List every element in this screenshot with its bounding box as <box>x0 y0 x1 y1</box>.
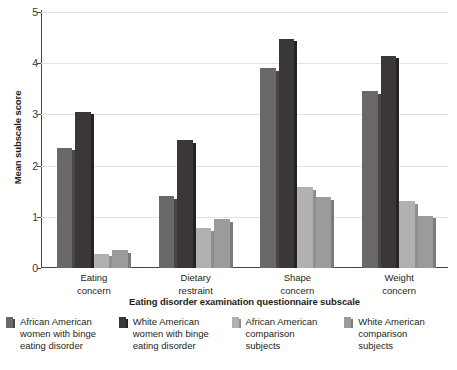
legend-label: African Americancomparisonsubjects <box>246 316 318 353</box>
bar-chart-figure: Mean subscale score 012345 Eatingconcern… <box>0 0 457 370</box>
x-axis-category-label: Dietaryrestraint <box>148 272 244 297</box>
bar-shadow-edge <box>128 253 131 268</box>
legend-swatch-shadow-edge <box>239 319 241 329</box>
x-axis-category-label-line: Shape <box>249 272 345 285</box>
legend-label-line: White American <box>133 316 209 328</box>
bar <box>381 56 400 268</box>
bar-face <box>214 219 230 268</box>
bar <box>159 196 178 268</box>
bar-shadow-edge <box>433 218 436 268</box>
legend-label: African Americanwomen with bingeeating d… <box>20 316 96 353</box>
x-axis-category-label: Weightconcern <box>351 272 447 297</box>
legend-label-line: subjects <box>246 340 318 352</box>
legend-label-line: African American <box>20 316 96 328</box>
bar-face <box>418 216 434 268</box>
bar-face <box>381 56 397 268</box>
legend-item: White Americancomparisonsubjects <box>344 316 457 353</box>
bar-face <box>399 201 415 268</box>
plot-region: Mean subscale score 012345 Eatingconcern… <box>0 4 457 286</box>
legend-swatch-shadow-edge <box>13 319 15 329</box>
legend-label: White Americancomparisonsubjects <box>358 316 425 353</box>
legend-label-line: women with binge <box>133 328 209 340</box>
bar <box>399 201 418 268</box>
legend-swatch-face <box>344 317 351 328</box>
bar-face <box>260 68 276 268</box>
bar-face <box>196 228 212 268</box>
y-axis-tick-mark <box>37 268 41 269</box>
legend-item: White Americanwomen with bingeeating dis… <box>119 316 232 353</box>
bar <box>57 148 76 268</box>
legend-label-line: comparison <box>246 328 318 340</box>
bar-face <box>112 250 128 268</box>
bar <box>297 187 316 268</box>
x-axis-category-label: Shapeconcern <box>249 272 345 297</box>
bar <box>94 254 113 268</box>
bar-shadow-edge <box>91 114 94 268</box>
y-axis-title: Mean subscale score <box>12 58 23 218</box>
bar-face <box>57 148 73 268</box>
x-axis-category-label-line: Eating <box>46 272 142 285</box>
bar-face <box>362 91 378 268</box>
x-axis-title: Eating disorder examination questionnair… <box>41 296 448 307</box>
legend-swatch-icon <box>6 317 15 328</box>
legend-swatch-shadow-edge <box>351 319 353 329</box>
legend-label-line: comparison <box>358 328 425 340</box>
bar-face <box>75 112 91 268</box>
bar-shadow-edge <box>230 222 233 268</box>
bar <box>362 91 381 268</box>
bar <box>177 140 196 268</box>
legend-swatch-icon <box>344 317 353 328</box>
bar <box>196 228 215 268</box>
bar-face <box>297 187 313 268</box>
legend-item: African Americancomparisonsubjects <box>232 316 345 353</box>
x-axis-category-label-line: Dietary <box>148 272 244 285</box>
x-axis-category-label-line: Weight <box>351 272 447 285</box>
legend-label-line: women with binge <box>20 328 96 340</box>
bar <box>279 39 298 268</box>
bar-face <box>316 197 332 268</box>
legend-swatch-face <box>232 317 239 328</box>
legend-swatch-icon <box>232 317 241 328</box>
y-axis-tick-labels: 012345 <box>22 4 38 274</box>
legend-label-line: subjects <box>358 340 425 352</box>
legend-label-line: eating disorder <box>20 340 96 352</box>
bars-layer <box>41 12 448 268</box>
legend-item: African Americanwomen with bingeeating d… <box>6 316 119 353</box>
bar <box>418 216 437 268</box>
legend-swatch-face <box>6 317 13 328</box>
legend-label-line: White American <box>358 316 425 328</box>
bar <box>316 197 335 268</box>
x-axis-category-label: Eatingconcern <box>46 272 142 297</box>
legend-swatch-face <box>119 317 126 328</box>
chart-legend: African Americanwomen with bingeeating d… <box>6 316 457 368</box>
bar-face <box>177 140 193 268</box>
legend-swatch-icon <box>119 317 128 328</box>
legend-label-line: eating disorder <box>133 340 209 352</box>
legend-label-line: African American <box>246 316 318 328</box>
bar-shadow-edge <box>331 200 334 268</box>
legend-swatch-shadow-edge <box>126 319 128 329</box>
bar-face <box>94 254 110 268</box>
bar-face <box>159 196 175 268</box>
bar <box>112 250 131 268</box>
bar-face <box>279 39 295 268</box>
legend-label: White Americanwomen with bingeeating dis… <box>133 316 209 353</box>
bar <box>260 68 279 268</box>
bar <box>75 112 94 268</box>
bar <box>214 219 233 268</box>
